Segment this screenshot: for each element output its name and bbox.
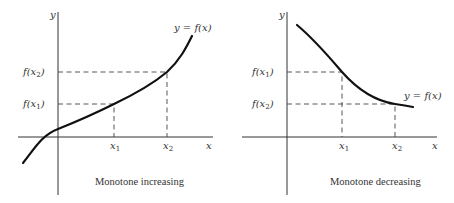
guide-x1 (287, 72, 342, 137)
y-axis-label: y (278, 9, 285, 20)
panel-decreasing: y x y = f(x) f(x1) f(x2) x1 x2 Monotone … (242, 9, 442, 195)
y-tick-f-x1: f(x1) (251, 66, 274, 79)
curve-label: y = f(x) (173, 22, 212, 33)
decreasing-curve (297, 25, 413, 107)
y-tick-f-x2: f(x2) (22, 66, 45, 79)
x-tick-x1: x1 (339, 140, 349, 153)
x-axis-label: x (206, 140, 212, 151)
x-tick-x2: x2 (163, 140, 173, 153)
panel-increasing: y x y = f(x) f(x2) f(x1) x1 x2 Monotone … (18, 9, 213, 195)
y-tick-f-x2: f(x2) (251, 98, 274, 111)
y-axis-label: y (49, 9, 56, 20)
x-tick-x2: x2 (392, 140, 402, 153)
guide-x2 (287, 104, 395, 137)
caption-increasing: Monotone increasing (95, 176, 185, 187)
x-tick-x1: x1 (110, 140, 120, 153)
monotone-functions-diagram: y x y = f(x) f(x2) f(x1) x1 x2 Monotone … (0, 0, 454, 203)
x-axis-label: x (432, 140, 438, 151)
curve-label: y = f(x) (403, 90, 442, 101)
y-tick-f-x1: f(x1) (22, 98, 45, 111)
caption-decreasing: Monotone decreasing (330, 176, 421, 187)
